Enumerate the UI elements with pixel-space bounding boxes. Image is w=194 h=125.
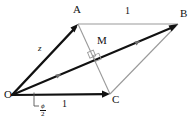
side-label-bottom-one: 1	[62, 99, 67, 109]
side-label-z: z	[38, 44, 42, 53]
point-label-C: C	[112, 94, 119, 105]
edge-C-to-B	[110, 24, 178, 94]
angle-label-phi-over-2: ϕ 2	[40, 103, 46, 119]
diagram-canvas	[0, 0, 194, 125]
geometry-diagram: O A B C M z 1 1 ϕ 2	[0, 0, 194, 125]
arrowhead-B	[169, 24, 179, 32]
side-label-top-one: 1	[125, 6, 130, 16]
point-label-O: O	[4, 89, 12, 100]
vector-O-to-A	[12, 28, 76, 96]
point-label-M: M	[97, 35, 107, 46]
vector-O-to-C	[12, 94, 106, 95]
point-label-B: B	[180, 8, 187, 19]
angle-label-denominator: 2	[40, 111, 46, 118]
right-angle-marker-M	[88, 50, 102, 61]
vector-O-to-B	[12, 27, 175, 96]
point-label-A: A	[73, 4, 81, 15]
